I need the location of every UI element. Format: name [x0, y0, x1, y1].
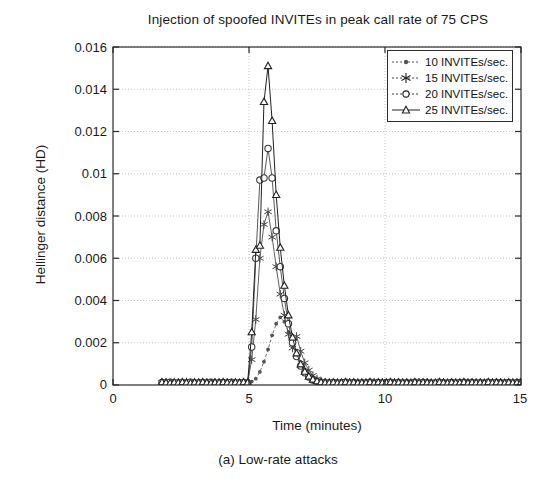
- legend-item[interactable]: 25 INVITEs/sec.: [388, 102, 512, 118]
- legend-label: 15 INVITEs/sec.: [421, 72, 508, 84]
- star-marker: [391, 71, 421, 85]
- legend-item[interactable]: 15 INVITEs/sec.: [388, 70, 512, 86]
- legend-label: 10 INVITEs/sec.: [421, 56, 508, 68]
- legend: 10 INVITEs/sec. 15 INVITEs/sec. 20 INVIT…: [387, 50, 513, 122]
- legend-item[interactable]: 20 INVITEs/sec.: [388, 86, 512, 102]
- triangle-marker: [391, 103, 421, 117]
- circle-marker: [391, 87, 421, 101]
- dot-marker: [391, 55, 421, 69]
- figure-container: Injection of spoofed INVITEs in peak cal…: [0, 0, 556, 498]
- legend-label: 25 INVITEs/sec.: [421, 104, 508, 116]
- figure-caption: (a) Low-rate attacks: [0, 452, 556, 467]
- x-axis-label: Time (minutes): [113, 418, 521, 433]
- legend-label: 20 INVITEs/sec.: [421, 88, 508, 100]
- legend-item[interactable]: 10 INVITEs/sec.: [388, 54, 512, 70]
